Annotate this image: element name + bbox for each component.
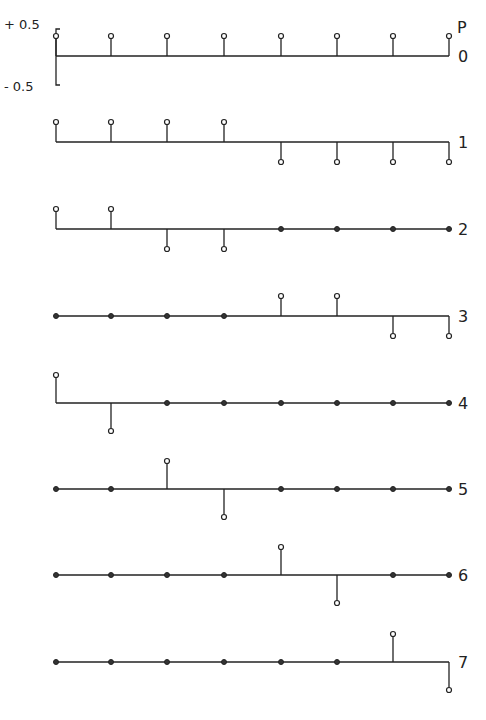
row-label: 3 <box>458 307 468 326</box>
zero-marker <box>335 227 340 232</box>
sample-marker <box>279 34 284 39</box>
sample-marker <box>335 294 340 299</box>
zero-marker <box>165 314 170 319</box>
zero-marker <box>222 660 227 665</box>
sample-marker <box>54 207 59 212</box>
sample-marker <box>54 373 59 378</box>
zero-marker <box>391 227 396 232</box>
zero-marker <box>447 227 452 232</box>
stem-row-5: 5 <box>54 459 469 520</box>
sample-marker <box>335 601 340 606</box>
sample-marker <box>165 247 170 252</box>
zero-marker <box>447 401 452 406</box>
zero-marker <box>54 660 59 665</box>
zero-marker <box>391 401 396 406</box>
stem-row-7: 7 <box>54 632 469 693</box>
zero-marker <box>109 660 114 665</box>
sample-marker <box>447 160 452 165</box>
zero-marker <box>165 660 170 665</box>
stem-row-6: 6 <box>54 545 469 606</box>
zero-marker <box>279 227 284 232</box>
zero-marker <box>335 401 340 406</box>
row-label: 5 <box>458 480 468 499</box>
zero-marker <box>447 573 452 578</box>
zero-marker <box>279 660 284 665</box>
sample-marker <box>165 120 170 125</box>
sample-marker <box>109 120 114 125</box>
row-label: 6 <box>458 566 468 585</box>
zero-marker <box>335 660 340 665</box>
zero-marker <box>391 573 396 578</box>
sample-marker <box>391 632 396 637</box>
zero-marker <box>165 573 170 578</box>
stem-row-0: 0 <box>54 34 469 67</box>
zero-marker <box>279 401 284 406</box>
sample-marker <box>335 160 340 165</box>
sample-marker <box>335 34 340 39</box>
zero-marker <box>165 401 170 406</box>
sample-marker <box>54 34 59 39</box>
sample-marker <box>447 334 452 339</box>
sample-marker <box>109 34 114 39</box>
zero-marker <box>54 487 59 492</box>
row-label: 1 <box>458 133 468 152</box>
sample-marker <box>391 334 396 339</box>
row-label: 7 <box>458 653 468 672</box>
zero-marker <box>54 314 59 319</box>
sample-marker <box>165 34 170 39</box>
stem-row-4: 4 <box>54 373 469 434</box>
row-label: 4 <box>458 394 468 413</box>
sample-marker <box>165 459 170 464</box>
sample-marker <box>222 120 227 125</box>
zero-marker <box>54 573 59 578</box>
amplitude-axis: + 0.5 - 0.5 <box>4 17 60 94</box>
sample-marker <box>109 207 114 212</box>
stem-row-1: 1 <box>54 120 469 165</box>
sample-marker <box>109 429 114 434</box>
zero-marker <box>222 314 227 319</box>
stem-row-2: 2 <box>54 207 469 252</box>
sample-marker <box>222 34 227 39</box>
sample-marker <box>222 515 227 520</box>
zero-marker <box>109 314 114 319</box>
sample-marker <box>222 247 227 252</box>
axis-label-minus: - 0.5 <box>4 79 34 94</box>
sample-marker <box>391 160 396 165</box>
axis-label-plus: + 0.5 <box>4 17 40 32</box>
row-label: 2 <box>458 220 468 239</box>
zero-marker <box>447 487 452 492</box>
zero-marker <box>222 573 227 578</box>
stem-row-3: 3 <box>54 294 469 339</box>
sample-marker <box>279 545 284 550</box>
p-axis-label: P <box>457 18 467 37</box>
zero-marker <box>109 487 114 492</box>
sample-marker <box>447 34 452 39</box>
sample-marker <box>447 688 452 693</box>
sample-marker <box>391 34 396 39</box>
zero-marker <box>391 487 396 492</box>
row-label: 0 <box>458 47 468 66</box>
zero-marker <box>279 487 284 492</box>
zero-marker <box>335 487 340 492</box>
haar-basis-stem-diagram: + 0.5 - 0.5 P 01234567 <box>0 0 486 720</box>
zero-marker <box>109 573 114 578</box>
sample-marker <box>54 120 59 125</box>
sample-marker <box>279 294 284 299</box>
sample-marker <box>279 160 284 165</box>
zero-marker <box>222 401 227 406</box>
